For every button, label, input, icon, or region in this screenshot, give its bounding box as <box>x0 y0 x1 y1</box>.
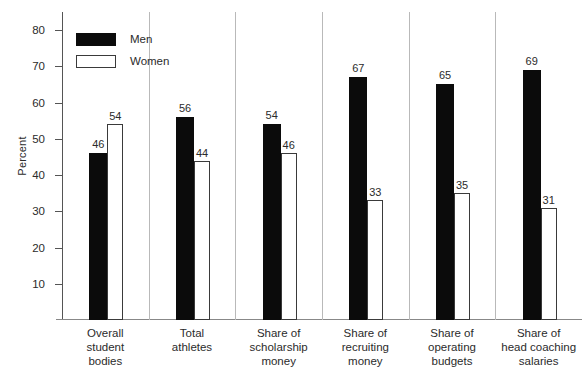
bar-value-label: 56 <box>179 102 191 114</box>
bar-value-label: 54 <box>109 110 121 122</box>
legend-item-men: Men <box>76 28 169 50</box>
x-category-label-line: Share of <box>322 326 409 340</box>
x-category-label: Totalathletes <box>149 326 236 354</box>
bar-women: 33 <box>367 200 383 320</box>
y-tick: 60 <box>55 103 62 104</box>
legend-item-women: Women <box>76 50 169 72</box>
y-tick-label: 10 <box>32 278 45 290</box>
x-category-label: Share ofscholarshipmoney <box>235 326 322 368</box>
x-category-label: Share ofhead coachingsalaries <box>495 326 582 368</box>
bar-value-label: 46 <box>283 139 295 151</box>
x-category-label: Overallstudentbodies <box>62 326 149 368</box>
y-tick: 40 <box>55 175 62 176</box>
group-separator <box>495 12 496 320</box>
y-tick-label: 80 <box>32 24 45 36</box>
y-tick: 10 <box>55 284 62 285</box>
bar-men: 67 <box>349 77 367 320</box>
bar-women: 54 <box>107 124 123 320</box>
legend-label-men: Men <box>130 33 152 45</box>
x-category-label-line: money <box>235 354 322 368</box>
x-category-label-line: bodies <box>62 354 149 368</box>
bar-value-label: 33 <box>369 186 381 198</box>
y-tick: 80 <box>55 30 62 31</box>
x-category-label-line: budgets <box>409 354 496 368</box>
x-category-label-line: student <box>62 340 149 354</box>
bar-men: 69 <box>523 70 541 320</box>
x-category-label-line: athletes <box>149 340 236 354</box>
bar-chart: Percent 1020304050607080 465456445446673… <box>0 0 588 374</box>
y-tick: 30 <box>55 211 62 212</box>
bar-value-label: 67 <box>352 62 364 74</box>
bar-men: 46 <box>89 153 107 320</box>
x-category-label-line: Share of <box>495 326 582 340</box>
y-axis-line <box>62 12 63 320</box>
bar-value-label: 54 <box>266 109 278 121</box>
bar-value-label: 35 <box>456 179 468 191</box>
x-category-label-line: scholarship <box>235 340 322 354</box>
bar-men: 56 <box>176 117 194 320</box>
bar-women: 44 <box>194 161 210 320</box>
bar-women: 46 <box>281 153 297 320</box>
y-tick-label: 60 <box>32 97 45 109</box>
x-category-label: Share ofrecruitingmoney <box>322 326 409 368</box>
y-tick: 20 <box>55 248 62 249</box>
x-axis-line <box>56 319 582 320</box>
x-category-label-line: Overall <box>62 326 149 340</box>
group-separator <box>409 12 410 320</box>
y-tick-label: 50 <box>32 133 45 145</box>
group-separator <box>235 12 236 320</box>
legend: Men Women <box>76 28 169 72</box>
x-category-label-line: head coaching <box>495 340 582 354</box>
group-separator <box>322 12 323 320</box>
y-tick: 70 <box>55 66 62 67</box>
y-tick-label: 70 <box>32 60 45 72</box>
bar-value-label: 31 <box>543 194 555 206</box>
x-category-label-line: recruiting <box>322 340 409 354</box>
legend-label-women: Women <box>130 55 169 67</box>
bar-value-label: 44 <box>196 147 208 159</box>
bar-value-label: 46 <box>92 138 104 150</box>
y-tick-label: 30 <box>32 205 45 217</box>
x-category-label-line: Share of <box>235 326 322 340</box>
y-tick: 50 <box>55 139 62 140</box>
bar-value-label: 65 <box>439 69 451 81</box>
x-category-label-line: operating <box>409 340 496 354</box>
x-category-label-line: salaries <box>495 354 582 368</box>
x-category-label: Share ofoperatingbudgets <box>409 326 496 368</box>
x-category-label-line: Total <box>149 326 236 340</box>
legend-swatch-women-icon <box>76 55 116 68</box>
y-axis-label: Percent <box>16 116 28 196</box>
bar-men: 65 <box>436 84 454 320</box>
y-tick-label: 40 <box>32 169 45 181</box>
bar-value-label: 69 <box>526 55 538 67</box>
x-category-label-line: Share of <box>409 326 496 340</box>
bar-men: 54 <box>263 124 281 320</box>
legend-swatch-men-icon <box>76 33 116 46</box>
bar-women: 35 <box>454 193 470 320</box>
bar-women: 31 <box>541 208 557 320</box>
x-category-label-line: money <box>322 354 409 368</box>
y-tick-label: 20 <box>32 242 45 254</box>
